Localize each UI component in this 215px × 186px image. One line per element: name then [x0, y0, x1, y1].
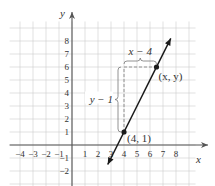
y-tick-label: −2 — [59, 166, 69, 176]
y-axis-label: y — [59, 7, 65, 19]
point-label-4-1: (4, 1) — [127, 132, 151, 145]
x-tick-label: 5 — [135, 149, 140, 159]
y-tick-label: 1 — [65, 127, 70, 137]
coordinate-plane: xy −4−3−2−11234567887654321−1−2 (4, 1)(x… — [0, 0, 215, 186]
point-label-x-y: (x, y) — [159, 70, 183, 83]
y-tick-label: 2 — [65, 114, 70, 124]
x-tick-label: 8 — [174, 149, 179, 159]
y-tick-label: 7 — [65, 49, 70, 59]
y-tick-label: 5 — [65, 75, 70, 85]
x-tick-label: −4 — [15, 149, 25, 159]
annotation-x-minus-4: x − 4 — [128, 45, 153, 57]
y-tick-label: 8 — [65, 36, 70, 46]
x-axis-label: x — [195, 153, 201, 165]
x-tick-label: 2 — [96, 149, 101, 159]
x-tick-label: 7 — [161, 149, 166, 159]
y-tick-label: 6 — [65, 62, 70, 72]
x-tick-label: 4 — [122, 149, 127, 159]
x-tick-label: −2 — [41, 149, 51, 159]
x-tick-label: −3 — [28, 149, 38, 159]
line-y-equals-2x-minus-7 — [108, 38, 171, 164]
graph-line — [108, 38, 171, 164]
x-tick-label: 1 — [83, 149, 88, 159]
y-tick-label: 3 — [65, 101, 70, 111]
y-tick-label: −1 — [59, 153, 69, 163]
y-tick-label: 4 — [65, 88, 70, 98]
horizontal-brace-icon — [124, 58, 157, 64]
vertical-brace-icon — [115, 67, 121, 132]
x-tick-label: 6 — [148, 149, 153, 159]
point-dot — [154, 64, 159, 69]
annotation-y-minus-1: y − 1 — [89, 93, 113, 105]
point-dot — [121, 129, 126, 134]
